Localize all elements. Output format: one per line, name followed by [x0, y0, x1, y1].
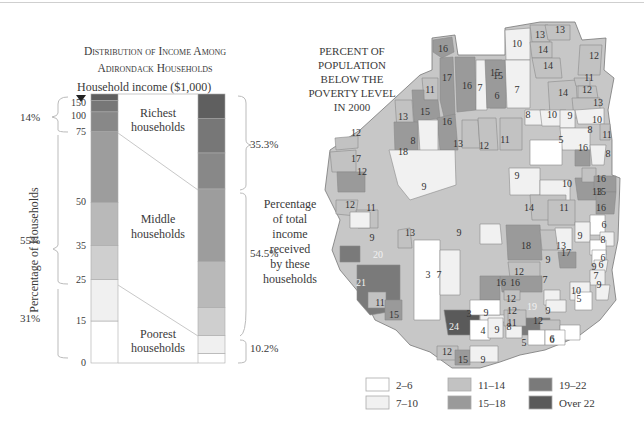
map-region — [440, 250, 460, 295]
map-region-label: 13 — [453, 138, 463, 149]
figure: Distribution of Income Among Adirondack … — [0, 0, 644, 438]
map-region-label: 7 — [478, 82, 483, 93]
group-label-richest-2: households — [131, 120, 185, 134]
map-region-label: 12 — [479, 140, 489, 151]
map-region-label: 9 — [578, 230, 583, 241]
map-region-label: 3 — [467, 308, 472, 319]
right-brackets — [238, 96, 251, 363]
legend-swatch — [448, 378, 471, 391]
map-region-label: 5 — [522, 337, 527, 348]
legend-label: 19–22 — [559, 379, 587, 391]
map-region — [500, 276, 542, 292]
map-region-label: 8 — [588, 124, 593, 135]
map-region-label: 16 — [510, 277, 520, 288]
map-region-label: 6 — [602, 219, 607, 230]
map-region-label: 12 — [507, 305, 517, 316]
legend-label: 15–18 — [478, 397, 506, 409]
map-region-label: 14 — [524, 202, 534, 213]
left-bar-segment-0-15 — [91, 321, 118, 363]
map-region — [350, 212, 370, 228]
map-region-label: 13 — [555, 24, 565, 35]
map-region — [440, 57, 455, 117]
map-region-label: 10 — [592, 114, 602, 125]
map-region-label: 4 — [481, 325, 486, 336]
map-region-label: 11 — [559, 202, 569, 213]
map-region-label: 12 — [357, 166, 367, 177]
chart-title-line1: Distribution of Income Among — [84, 45, 226, 57]
map-region-label: 12 — [514, 266, 524, 277]
map-region — [545, 330, 565, 345]
map-region-label: 12 — [506, 293, 516, 304]
map-region-label: 14 — [543, 60, 553, 71]
tick-label: 25 — [76, 274, 86, 285]
income-annotation-line: income — [272, 227, 307, 241]
map-title-line: BELOW THE — [321, 73, 384, 85]
map-region-label: 14 — [558, 87, 568, 98]
map-region-label: 11 — [500, 134, 510, 145]
chart-title-line2: Adirondack Households — [97, 62, 212, 74]
map-region-label: 9 — [515, 170, 520, 181]
map-region-label: 15 — [389, 309, 399, 320]
map-region-label: 15 — [493, 70, 503, 81]
left-bar-segment-75-100 — [91, 112, 118, 132]
left-bar-segment-25-35 — [91, 246, 118, 280]
income-annotation-line: Percentage — [264, 197, 317, 211]
left-bar-segment-50-75 — [91, 132, 118, 203]
map-region-label: 11 — [375, 297, 385, 308]
map-region-label: 9 — [457, 227, 462, 238]
map-region-label: 13 — [593, 97, 603, 108]
map-region-label: 9 — [568, 110, 573, 121]
map-region-label: 20 — [373, 249, 383, 260]
map-region-label: 16 — [438, 43, 448, 54]
tick-label: 35 — [76, 240, 86, 251]
map-region-label: 15 — [596, 186, 606, 197]
map-region-label: 16 — [462, 80, 472, 91]
map-region-label: 18 — [398, 146, 408, 157]
map-region-label: 18 — [521, 240, 531, 251]
tick-label: 75 — [76, 126, 86, 137]
households-pct-rich: 14% — [20, 111, 40, 123]
left-brackets — [52, 97, 68, 358]
map-title-line: POPULATION — [318, 59, 386, 71]
map-region-label: 12 — [345, 199, 355, 210]
right-bar-segment-25-35 — [198, 307, 225, 335]
group-label-middle-2: households — [131, 227, 185, 241]
map-region-label: 9 — [370, 232, 375, 243]
left-bar-segment-15-25 — [91, 280, 118, 321]
map-region-label: 12 — [589, 50, 599, 61]
map-region-label: 7 — [543, 274, 548, 285]
income-annotation-line: households — [263, 272, 317, 286]
legend-swatch — [529, 396, 552, 409]
map-region-label: 13 — [535, 29, 545, 40]
map-region-label: 9 — [484, 307, 489, 318]
map-region-label: 16 — [596, 173, 606, 184]
left-bar-segment-150+ — [91, 94, 118, 101]
map-region-label: 12 — [351, 127, 361, 138]
tick-label: 15 — [76, 315, 86, 326]
map-region-label: 12 — [442, 346, 452, 357]
group-label-richest-1: Richest — [140, 106, 177, 120]
map-region-label: 11 — [366, 202, 376, 213]
map-region-label: 9 — [546, 305, 551, 316]
map-region — [414, 240, 440, 320]
map-region — [335, 136, 358, 150]
map-region-label: 24 — [449, 321, 459, 332]
legend-label: Over 22 — [559, 397, 595, 409]
map-region-label: 13 — [405, 227, 415, 238]
map-region-label: 5 — [577, 293, 582, 304]
map-region-label: 11 — [425, 84, 435, 95]
map-region — [508, 262, 540, 278]
map-title-line: PERCENT OF — [319, 45, 385, 57]
map-region-label: 3 — [426, 269, 431, 280]
left-bar-segment-100-150 — [91, 101, 118, 112]
legend-label: 7–10 — [396, 397, 419, 409]
legend-label: 11–14 — [478, 379, 506, 391]
right-bar-segment-35-50 — [198, 261, 225, 307]
map-region-label: 11 — [602, 129, 612, 140]
right-bar-segment-100-150 — [198, 119, 225, 153]
map-region-label: 16 — [496, 277, 506, 288]
legend-label: 2–6 — [396, 379, 413, 391]
map-region-label: 17 — [442, 72, 452, 83]
right-bar-segment-15-25 — [198, 336, 225, 354]
map-region-label: 12 — [533, 315, 543, 326]
